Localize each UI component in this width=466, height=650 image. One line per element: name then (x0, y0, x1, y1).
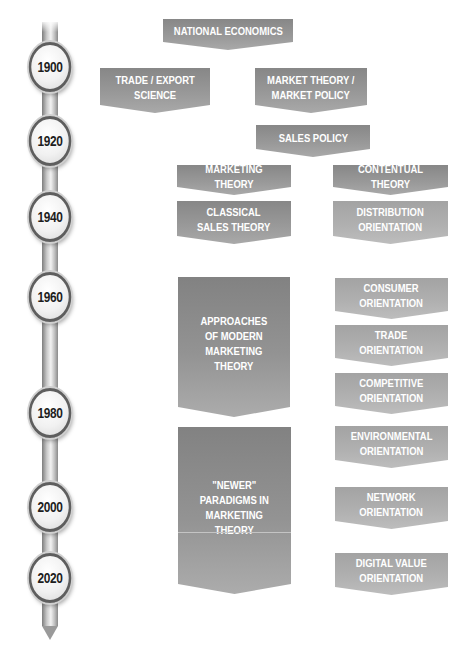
marketing-theory-timeline-diagram: 1900 1920 1940 1960 1980 2000 2020 NATIO… (0, 0, 466, 650)
year-marker-1900: 1900 (29, 42, 72, 92)
box-label: NATIONAL ECONOMICS (174, 24, 283, 39)
box-label: COMPETITIVE ORIENTATION (359, 376, 423, 406)
box-label: APPROACHES OF MODERN MARKETING THEORY (201, 314, 268, 374)
box-label: TRADE ORIENTATION (360, 328, 424, 358)
box-label: DISTRIBUTION ORIENTATION (357, 205, 424, 235)
year-marker-1960: 1960 (29, 272, 72, 322)
box-label: MARKET THEORY / MARKET POLICY (267, 73, 354, 103)
box-trade-orientation: TRADE ORIENTATION (335, 325, 448, 366)
box-label: MARKETING THEORY (185, 162, 283, 192)
box-national-economics: NATIONAL ECONOMICS (163, 19, 293, 50)
box-environmental-orientation: ENVIRONMENTAL ORIENTATION (335, 426, 448, 468)
box-market-theory-policy: MARKET THEORY / MARKET POLICY (255, 68, 367, 113)
box-label: CONTENTUAL THEORY (341, 162, 440, 192)
box-marketing-theory: MARKETING THEORY (177, 165, 291, 195)
year-marker-1980: 1980 (29, 388, 72, 438)
box-approaches-modern-marketing-theory: APPROACHES OF MODERN MARKETING THEORY (178, 277, 290, 417)
year-marker-2000: 2000 (29, 482, 72, 532)
box-trade-export-science: TRADE / EXPORT SCIENCE (100, 68, 210, 113)
box-contentual-theory: CONTENTUAL THEORY (333, 165, 448, 195)
box-label: TRADE / EXPORT SCIENCE (115, 73, 194, 103)
box-label: DIGITAL VALUE ORIENTATION (356, 556, 427, 586)
box-distribution-orientation: DISTRIBUTION ORIENTATION (333, 201, 448, 244)
box-label: "NEWER" PARADIGMS IN MARKETING THEORY (200, 478, 269, 538)
year-marker-1920: 1920 (29, 116, 72, 166)
year-marker-2020: 2020 (29, 553, 72, 603)
box-classical-sales-theory: CLASSICAL SALES THEORY (177, 201, 291, 244)
box-newer-paradigms-marketing-theory: "NEWER" PARADIGMS IN MARKETING THEORY (178, 427, 291, 594)
box-competitive-orientation: COMPETITIVE ORIENTATION (335, 373, 448, 414)
box-label: SALES POLICY (278, 131, 347, 146)
box-digital-value-orientation: DIGITAL VALUE ORIENTATION (335, 553, 448, 595)
box-sales-policy: SALES POLICY (256, 125, 370, 157)
box-consumer-orientation: CONSUMER ORIENTATION (335, 278, 448, 319)
box-label: CLASSICAL SALES THEORY (197, 205, 270, 235)
box-seam-divider (178, 532, 291, 533)
year-marker-1940: 1940 (29, 192, 72, 242)
box-label: ENVIRONMENTAL ORIENTATION (351, 429, 433, 459)
box-network-orientation: NETWORK ORIENTATION (335, 487, 448, 529)
box-label: CONSUMER ORIENTATION (360, 281, 424, 311)
timeline-bar-top-fade (40, 20, 60, 32)
timeline-bar (42, 22, 58, 626)
box-label: NETWORK ORIENTATION (360, 490, 424, 520)
timeline-arrow-tip-icon (42, 626, 58, 640)
